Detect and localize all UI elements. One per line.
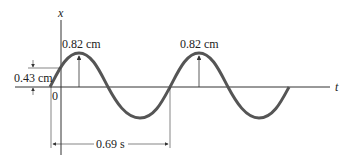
period-label: 0.69 s (96, 137, 125, 151)
sine-wave (50, 53, 289, 118)
peak-label-2: 0.82 cm (180, 37, 219, 51)
peak-label-1: 0.82 cm (62, 37, 101, 51)
wave-diagram: x t 0 0.82 cm 0.82 cm 0.43 cm 0.69 s (0, 0, 352, 163)
t-axis-label: t (335, 80, 339, 94)
x-axis-label: x (57, 6, 64, 20)
offset-label: 0.43 cm (14, 71, 53, 85)
origin-label: 0 (52, 89, 58, 103)
